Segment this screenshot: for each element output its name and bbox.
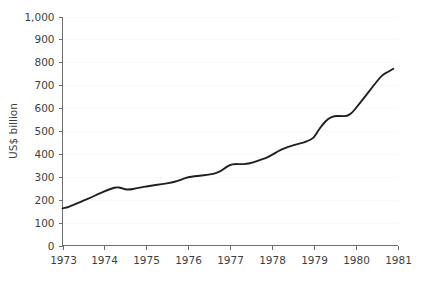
x-axis-tick-label: 1973 xyxy=(50,254,77,266)
y-axis-tick-label: 0 xyxy=(48,240,55,252)
x-axis-tick-label: 1978 xyxy=(259,254,286,266)
y-axis-tick-label: 900 xyxy=(34,33,54,45)
y-axis-tick-label: 200 xyxy=(34,194,54,206)
x-axis-tick-label: 1979 xyxy=(301,254,328,266)
y-axis-title: US$ billion xyxy=(7,103,19,159)
x-axis-tick-label: 1976 xyxy=(175,254,202,266)
chart-background xyxy=(0,0,423,281)
y-axis-tick-label: 1,000 xyxy=(24,11,54,23)
chart-container: 01002003004005006007008009001,000 197319… xyxy=(0,0,423,281)
y-axis-tick-label: 500 xyxy=(34,125,54,137)
y-axis-tick-label: 400 xyxy=(34,148,54,160)
x-axis-tick-label: 1974 xyxy=(91,254,118,266)
y-axis-tick-label: 100 xyxy=(34,217,54,229)
x-axis-tick-label: 1980 xyxy=(343,254,370,266)
y-axis-tick-label: 600 xyxy=(34,102,54,114)
x-axis-tick-label: 1981 xyxy=(385,254,412,266)
y-axis-tick-label: 300 xyxy=(34,171,54,183)
x-axis-tick-label: 1975 xyxy=(133,254,160,266)
y-axis-tick-label: 700 xyxy=(34,79,54,91)
x-axis-tick-label: 1977 xyxy=(217,254,244,266)
x-axis-labels: 197319741975197619771978197919801981 xyxy=(50,254,412,266)
line-chart: 01002003004005006007008009001,000 197319… xyxy=(0,0,423,281)
y-axis-tick-label: 800 xyxy=(34,56,54,68)
